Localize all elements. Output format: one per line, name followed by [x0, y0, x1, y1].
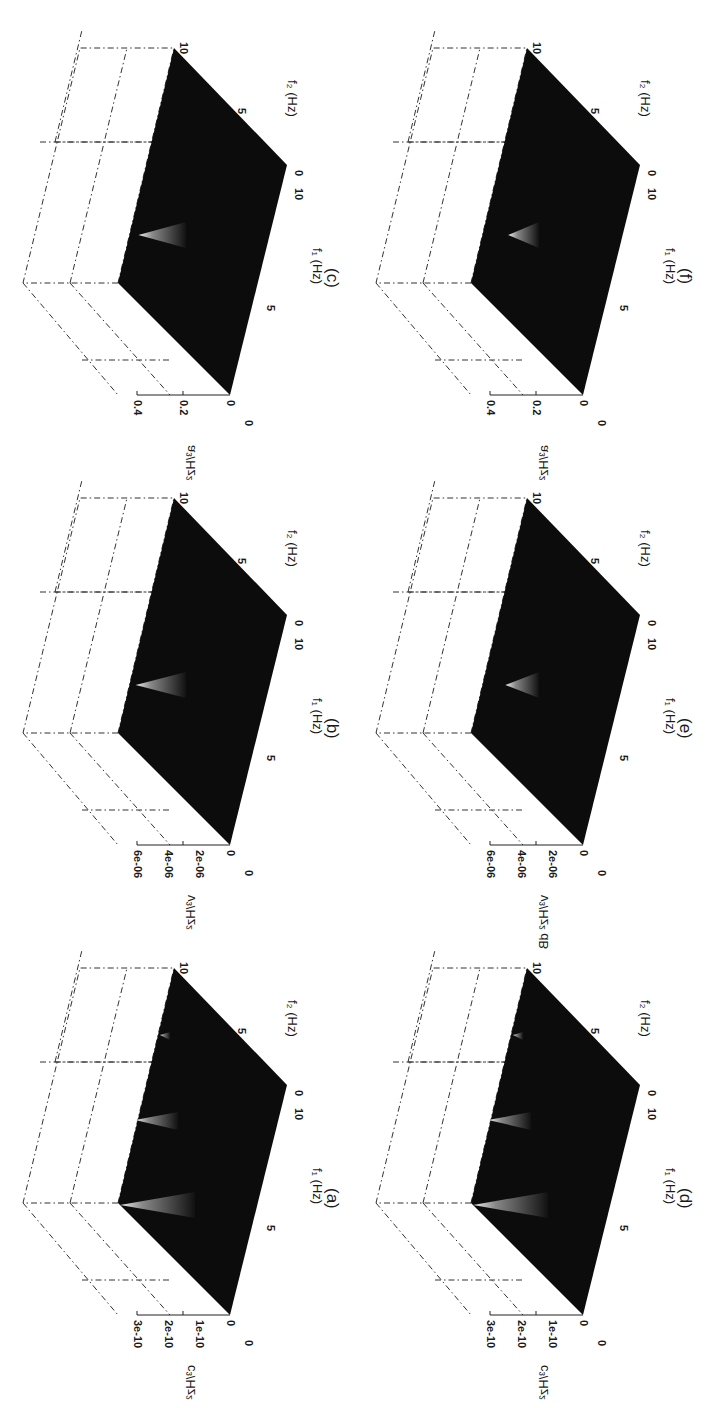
- f1-tick-10: 10: [646, 638, 658, 650]
- f1-tick-10: 10: [646, 1108, 658, 1120]
- panel-caption: (d): [676, 1188, 695, 1209]
- f1-tick-5: 5: [265, 1225, 277, 1231]
- f1-tick-10: 10: [293, 638, 305, 650]
- f1-label: f₁ (Hz): [663, 698, 678, 734]
- panel-f: 0 0.2 0.4 0 5 10 0 5 10 a³/Hz² f₁ (Hz) f…: [376, 30, 695, 481]
- f2-tick-10: 10: [531, 962, 543, 974]
- f1-tick-10: 10: [293, 1108, 305, 1120]
- f2-label: f₂ (Hz): [285, 80, 300, 117]
- figure: 0 0.2 0.4 0 5 10 0 5 10 a³/Hz² f₁ (Hz) f…: [0, 0, 707, 1408]
- ztick-2: 2e-10: [516, 1320, 528, 1348]
- ztick-1: 0.2: [531, 400, 543, 415]
- ztick-3: 3e-10: [485, 1320, 497, 1348]
- f1-tick-5: 5: [618, 1225, 630, 1231]
- f1-tick-0: 0: [596, 420, 608, 426]
- f1-tick-0: 0: [243, 870, 255, 876]
- f2-tick-10: 10: [178, 492, 190, 504]
- panel-a: 0 1e-10 2e-10 0 5 10 0 5 10 3e-10 c³/Hz²…: [23, 950, 342, 1400]
- f2-tick-0: 0: [646, 170, 658, 176]
- panel-caption: (e): [676, 718, 695, 739]
- ztick-1: 0.2: [178, 400, 190, 415]
- ztick-3: 3e-10: [132, 1320, 144, 1348]
- f1-tick-5: 5: [265, 755, 277, 761]
- ztick-0: 0: [578, 850, 590, 856]
- surface-floor: [118, 498, 287, 845]
- f2-tick-10: 10: [178, 42, 190, 54]
- ztick-3: 6e-06: [485, 850, 497, 878]
- ztick-2: 2e-10: [163, 1320, 175, 1348]
- f2-label: f₂ (Hz): [638, 80, 653, 117]
- f1-tick-10: 10: [646, 188, 658, 200]
- f1-label: f₁ (Hz): [310, 698, 325, 734]
- f1-tick-0: 0: [596, 1340, 608, 1346]
- panel-b: 0 2e-06 4e-06 0 5 10 0 5 10 6e-06 v³/Hz²…: [23, 480, 342, 930]
- f1-label: f₁ (Hz): [663, 1168, 678, 1204]
- panel-caption: (a): [323, 1188, 342, 1209]
- surface-floor: [118, 48, 287, 395]
- ztick-0: 0: [225, 850, 237, 856]
- f1-tick-5: 5: [618, 755, 630, 761]
- ztick-2: 4e-06: [163, 850, 175, 878]
- zlabel: a³/Hz²: [536, 445, 551, 481]
- f2-tick-5: 5: [589, 108, 601, 114]
- zlabel: c³/Hz²: [536, 1365, 551, 1400]
- ztick-0: 0: [578, 1320, 590, 1326]
- ztick-3: 6e-06: [132, 850, 144, 878]
- f1-label: f₁ (Hz): [310, 248, 325, 284]
- surface-floor: [118, 968, 287, 1315]
- f2-tick-5: 5: [589, 558, 601, 564]
- f1-tick-10: 10: [293, 188, 305, 200]
- ztick-2: 0.4: [132, 400, 144, 416]
- panel-caption: (b): [323, 718, 342, 739]
- f2-tick-0: 0: [293, 620, 305, 626]
- f2-label: f₂ (Hz): [285, 1000, 300, 1037]
- ztick-1: 2e-06: [547, 850, 559, 878]
- f2-tick-10: 10: [531, 42, 543, 54]
- surface-floor: [471, 498, 640, 845]
- f2-label: f₂ (Hz): [638, 1000, 653, 1037]
- f2-label: f₂ (Hz): [285, 530, 300, 567]
- f2-tick-5: 5: [236, 558, 248, 564]
- f1-label: f₁ (Hz): [310, 1168, 325, 1204]
- panel-c: 0 0.2 0.4 0 5 10 0 5 10 a³/Hz² f₁ (Hz) f…: [23, 30, 342, 481]
- surface-floor: [471, 48, 640, 395]
- ztick-1: 2e-06: [194, 850, 206, 878]
- panel-e: 0 2e-06 4e-06 0 5 10 0 5 10 6e-06 v³/Hz²…: [376, 480, 695, 949]
- zlabel: c³/Hz²: [183, 1365, 198, 1400]
- zlabel: v³/Hz² dB: [536, 895, 551, 949]
- f2-tick-10: 10: [531, 492, 543, 504]
- f2-tick-0: 0: [646, 1090, 658, 1096]
- f2-tick-0: 0: [293, 170, 305, 176]
- surface-floor: [471, 968, 640, 1315]
- ztick-2: 0.4: [485, 400, 497, 416]
- f1-tick-5: 5: [618, 305, 630, 311]
- zlabel: a³/Hz²: [183, 445, 198, 481]
- ztick-0: 0: [225, 1320, 237, 1326]
- zlabel: v³/Hz²: [183, 895, 198, 930]
- f2-tick-5: 5: [236, 108, 248, 114]
- f2-label: f₂ (Hz): [638, 530, 653, 567]
- f1-tick-5: 5: [265, 305, 277, 311]
- f2-tick-10: 10: [178, 962, 190, 974]
- f2-tick-0: 0: [646, 620, 658, 626]
- ztick-1: 1e-10: [194, 1320, 206, 1348]
- f1-label: f₁ (Hz): [663, 248, 678, 284]
- f1-tick-0: 0: [596, 870, 608, 876]
- f1-tick-0: 0: [243, 420, 255, 426]
- panel-caption: (c): [323, 268, 342, 288]
- ztick-2: 4e-06: [516, 850, 528, 878]
- panel-caption: (f): [676, 268, 695, 284]
- f2-tick-5: 5: [589, 1028, 601, 1034]
- ztick-1: 1e-10: [547, 1320, 559, 1348]
- f1-tick-0: 0: [243, 1340, 255, 1346]
- panel-d: 0 1e-10 2e-10 0 5 10 0 5 10 3e-10 c³/Hz²…: [376, 950, 695, 1400]
- f2-tick-0: 0: [293, 1090, 305, 1096]
- f2-tick-5: 5: [236, 1028, 248, 1034]
- ztick-0: 0: [578, 400, 590, 406]
- ztick-0: 0: [225, 400, 237, 406]
